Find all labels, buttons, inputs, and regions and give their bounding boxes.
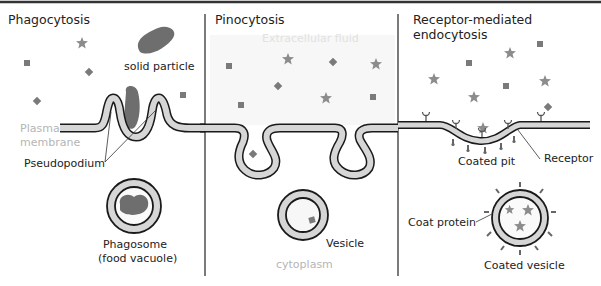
panel-title-receptor-mediated-line2: endocytosis: [413, 27, 488, 42]
solute-star-icon: [504, 47, 516, 59]
coat-protein-icon: [466, 145, 469, 152]
label-plasma-membrane-line2: membrane: [20, 136, 80, 149]
panel-title-receptor-mediated-line1: Receptor-mediated: [413, 12, 532, 27]
label-pseudopodium: Pseudopodium: [24, 157, 105, 170]
label-coat-protein: Coat protein: [408, 216, 476, 229]
solute-square-icon: [226, 63, 232, 69]
solute-square-icon: [180, 92, 186, 98]
label-phagosome: Phagosome: [100, 238, 170, 251]
coat-protein-icon: [483, 147, 486, 154]
label-vesicle: Vesicle: [326, 237, 364, 250]
solute-diamond-icon: [544, 103, 552, 111]
receptor-icon: [423, 112, 430, 121]
solute-star-icon: [428, 73, 440, 85]
panel-title-phagocytosis: Phagocytosis: [8, 12, 90, 27]
label-extracellular-fluid: Extracellular fluid: [262, 32, 359, 45]
solid-particle-icon: [138, 27, 174, 54]
label-food-vacuole: (food vacuole): [98, 252, 172, 265]
panel-title-pinocytosis: Pinocytosis: [215, 12, 285, 27]
solute-square-icon: [503, 83, 509, 89]
label-solid-particle: solid particle: [124, 60, 195, 73]
solute-star-icon: [76, 37, 88, 49]
solute-diamond-icon: [85, 68, 93, 76]
solute-diamond-icon: [33, 97, 41, 105]
solute-square-icon: [537, 41, 543, 47]
coat-protein-icon: [512, 136, 515, 143]
label-cytoplasm: cytoplasm: [276, 258, 333, 271]
solute-star-icon: [468, 91, 480, 103]
solute-square-icon: [238, 102, 244, 108]
coat-protein-icon: [499, 143, 502, 150]
solute-star-icon: [539, 75, 551, 87]
solute-diamond-icon: [249, 150, 257, 158]
label-plasma-membrane-line1: Plasma: [20, 122, 60, 135]
receptor-icon: [538, 112, 545, 121]
coated-vesicle-icon: [484, 182, 556, 255]
label-receptor: Receptor: [544, 152, 593, 165]
label-coated-vesicle: Coated vesicle: [484, 259, 565, 272]
coat-protein-icon: [451, 139, 454, 146]
solute-square-icon: [24, 60, 30, 66]
solute-square-icon: [466, 60, 472, 66]
label-coated-pit: Coated pit: [458, 155, 515, 168]
solute-square-icon: [370, 94, 376, 100]
